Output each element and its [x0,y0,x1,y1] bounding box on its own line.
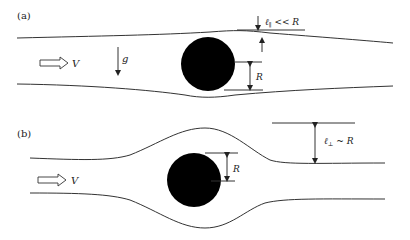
panel-a-velocity-arrow-icon [40,57,68,69]
panel-b-velocity-arrow-icon [38,174,66,186]
panel-b: (b) V R ℓ⊥ ~ R [17,123,385,228]
panel-b-radius-label: R [232,164,240,174]
panel-b-thickness-label: ℓ⊥ ~ R [324,136,354,147]
panel-a-velocity-label: V [72,58,81,69]
panel-b-sphere [167,153,221,207]
panel-a-label: (a) [17,10,31,21]
panel-b-label: (b) [17,128,31,139]
panel-a: (a) V g R ℓ∥ << R [17,10,393,97]
panel-a-sphere [181,37,235,91]
panel-b-velocity-label: V [71,175,80,186]
panel-a-thickness-label: ℓ∥ << R [265,17,299,28]
panel-a-gravity-label: g [122,53,128,64]
flow-diagram: (a) V g R ℓ∥ << R (b) [0,0,410,240]
panel-a-radius-label: R [255,72,263,82]
